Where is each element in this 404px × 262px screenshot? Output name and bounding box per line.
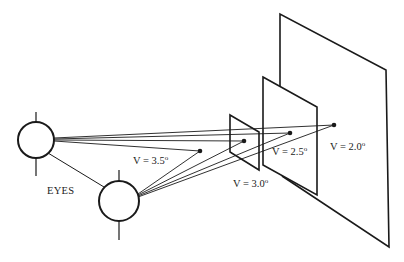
label-v25: V = 2.5o — [272, 145, 308, 157]
dot-v20 — [332, 123, 337, 128]
label-v35: V = 3.5o — [133, 154, 169, 166]
label-v20: V = 2.0o — [330, 140, 366, 152]
label-v30: V = 3.0o — [233, 177, 269, 189]
dot-v35 — [198, 149, 203, 154]
right-eye-icon — [99, 170, 139, 240]
binocular-visual-angle-diagram: EYES V = 3.5o V = 3.0o V = 2.5o V = 2.0o — [0, 0, 404, 262]
left-eye-icon — [18, 112, 54, 176]
dot-v30 — [242, 139, 247, 144]
eyes-label: EYES — [47, 185, 74, 196]
plane-medium — [263, 77, 317, 195]
interocular-line — [48, 153, 104, 187]
dot-v25 — [288, 131, 293, 136]
